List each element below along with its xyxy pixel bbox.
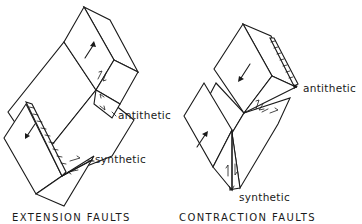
contraction-caption: CONTRACTION FAULTS	[179, 212, 316, 223]
extension-caption: EXTENSION FAULTS	[12, 212, 131, 223]
contraction-faults-panel: antithetic synthetic CONTRACTION FAULTS	[179, 24, 356, 223]
extension-synthetic-label: synthetic	[95, 153, 146, 165]
extension-faults-panel: antithetic synthetic EXTENSION FAULTS	[4, 7, 171, 223]
extension-antithetic-label: antithetic	[118, 109, 171, 121]
fault-diagram-figure: antithetic synthetic EXTENSION FAULTS	[0, 0, 362, 224]
contraction-antithetic-label: antithetic	[303, 82, 356, 94]
contraction-synthetic-label: synthetic	[239, 191, 290, 203]
